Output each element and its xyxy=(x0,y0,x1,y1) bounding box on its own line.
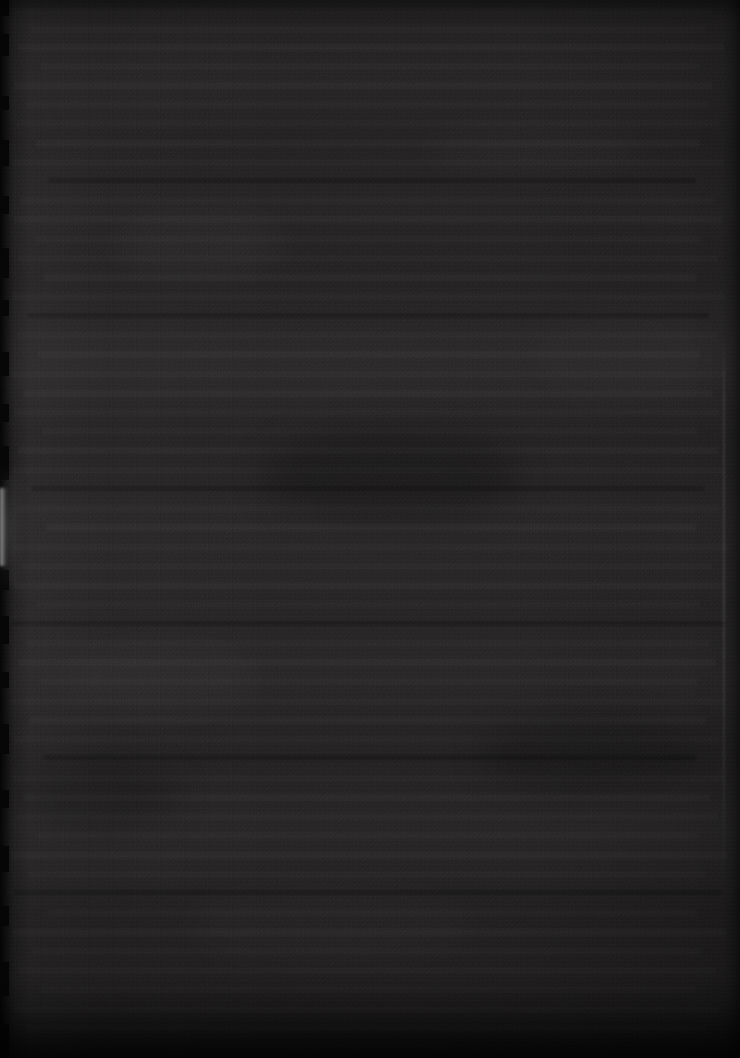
document-photograph xyxy=(0,0,740,1058)
global-vignette xyxy=(0,0,740,1058)
